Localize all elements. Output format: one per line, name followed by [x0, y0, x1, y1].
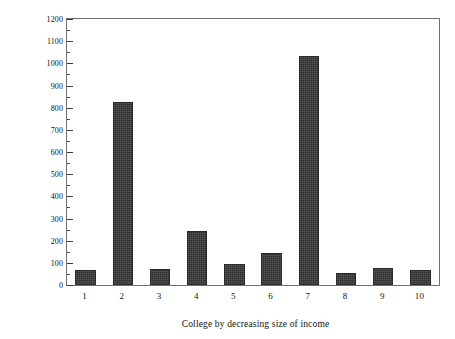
x-axis-title: College by decreasing size of income — [66, 319, 445, 329]
bar — [410, 270, 430, 285]
y-tick-label: 1200 — [47, 15, 63, 24]
y-tick-label: 600 — [51, 148, 63, 157]
y-tick-label: 400 — [51, 192, 63, 201]
bar-slot — [336, 19, 356, 285]
bar — [373, 268, 393, 285]
bar — [150, 269, 170, 285]
y-tick-label: 900 — [51, 81, 63, 90]
y-tick-label: 0 — [59, 281, 63, 290]
bar — [113, 102, 133, 285]
y-tick-major — [67, 285, 73, 286]
y-tick-label: 500 — [51, 170, 63, 179]
bar-slot — [410, 19, 430, 285]
x-tick-label: 4 — [194, 291, 199, 301]
bar-slot — [150, 19, 170, 285]
y-tick-label: 200 — [51, 236, 63, 245]
x-tick-label: 7 — [305, 291, 310, 301]
bar — [299, 56, 319, 285]
x-tick-label: 3 — [157, 291, 162, 301]
bar-slot — [187, 19, 207, 285]
bar — [224, 264, 244, 285]
x-tick-label: 10 — [415, 291, 424, 301]
y-tick-label: 700 — [51, 125, 63, 134]
x-tick-label: 1 — [82, 291, 87, 301]
y-tick-label: 1000 — [47, 59, 63, 68]
x-tick-label: 5 — [231, 291, 236, 301]
bar-slot — [75, 19, 95, 285]
y-tick-label: 100 — [51, 258, 63, 267]
x-tick-label: 9 — [380, 291, 385, 301]
bar-series — [67, 19, 439, 285]
bar-slot — [113, 19, 133, 285]
y-tick-label: 1100 — [47, 37, 63, 46]
bar — [261, 253, 281, 285]
bar — [187, 231, 207, 285]
x-tick-label: 2 — [119, 291, 124, 301]
bar-slot — [373, 19, 393, 285]
bar — [75, 270, 95, 285]
x-tick-label: 6 — [268, 291, 273, 301]
plot-area: 0100200300400500600700800900100011001200 — [66, 18, 440, 286]
x-tick-label: 8 — [343, 291, 348, 301]
y-tick-label: 300 — [51, 214, 63, 223]
y-tick-label: 800 — [51, 103, 63, 112]
bar-slot — [261, 19, 281, 285]
bar — [336, 273, 356, 285]
bar-slot — [299, 19, 319, 285]
bar-slot — [224, 19, 244, 285]
bar-chart-figure: Pounds/Number of residents 0100200300400… — [0, 0, 455, 339]
